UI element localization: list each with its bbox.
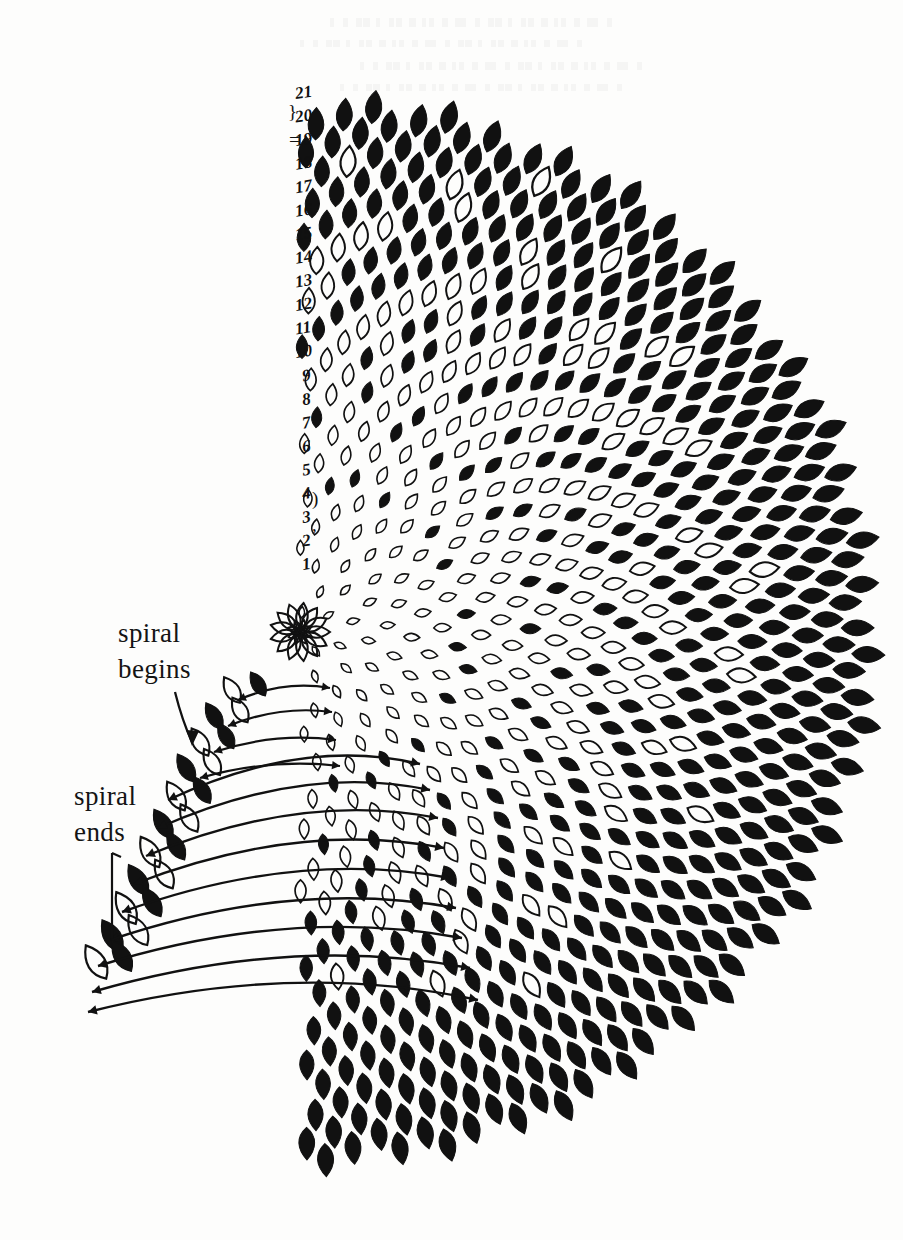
figure-canvas: 123456789101112131415161718192021}=), sp… <box>0 0 903 1240</box>
bleedthrough-mark <box>452 62 456 70</box>
row-number: 18 <box>294 152 314 174</box>
bleedthrough-mark <box>442 18 448 27</box>
bleedthrough-mark <box>508 18 512 27</box>
bleedthrough-mark <box>488 18 494 27</box>
row-number: 14 <box>294 246 314 267</box>
bleedthrough-mark <box>554 18 558 27</box>
bleedthrough-mark <box>343 18 348 27</box>
bleedthrough-mark <box>396 18 402 27</box>
bleedthrough-mark <box>340 84 344 91</box>
bleedthrough-mark <box>561 18 566 27</box>
bleedthrough-mark <box>518 84 522 91</box>
bleedthrough-mark <box>419 62 424 70</box>
bleedthrough-mark <box>366 40 372 47</box>
bleedthrough-mark <box>594 18 598 27</box>
row-brace-mark: ) <box>312 488 318 510</box>
row-number: 11 <box>294 317 313 338</box>
spiral-ends-line1: spiral <box>74 781 136 811</box>
bleedthrough-mark <box>485 84 490 91</box>
row-number: 21 <box>293 82 314 104</box>
bleedthrough-mark <box>521 18 526 27</box>
spiral-ends-line2: ends <box>74 817 125 847</box>
bleedthrough-mark <box>366 84 372 91</box>
bleedthrough-mark <box>495 18 502 27</box>
bleedthrough-mark <box>462 18 466 27</box>
bleedthrough-mark <box>386 84 390 91</box>
row-number: 10 <box>294 340 314 362</box>
bleedthrough-mark <box>518 62 524 70</box>
bleedthrough-mark <box>472 62 478 70</box>
bleedthrough-mark <box>472 84 476 91</box>
bleedthrough-mark <box>406 84 412 91</box>
spiral-begins-line1: spiral <box>118 618 180 648</box>
bleedthrough-mark <box>591 62 596 70</box>
bleedthrough-mark <box>564 40 568 47</box>
bleedthrough-mark <box>505 84 512 91</box>
bleedthrough-mark <box>330 18 334 27</box>
bleedthrough-mark <box>313 40 318 47</box>
row-brace-mark: } <box>288 101 297 122</box>
bleedthrough-mark <box>465 84 472 91</box>
row-number: 12 <box>294 293 314 315</box>
bleedthrough-mark <box>597 84 604 91</box>
spiral-begins-line2: begins <box>118 654 191 684</box>
bleedthrough-mark <box>574 18 580 27</box>
bleedthrough-mark <box>379 40 386 47</box>
bleedthrough-mark <box>373 62 378 70</box>
bleedthrough-mark <box>571 62 578 70</box>
bleedthrough-mark <box>571 84 576 91</box>
bleedthrough-mark <box>577 40 582 47</box>
bleedthrough-mark <box>624 62 628 70</box>
bleedthrough-mark <box>564 84 568 91</box>
bleedthrough-mark <box>531 40 536 47</box>
bleedthrough-mark <box>557 40 564 47</box>
bleedthrough-mark <box>458 40 464 47</box>
bleedthrough-mark <box>406 62 410 70</box>
bleedthrough-mark <box>538 62 542 70</box>
bleedthrough-mark <box>360 62 364 70</box>
bleedthrough-mark <box>412 40 418 47</box>
bleedthrough-mark <box>607 18 612 27</box>
bleedthrough-mark <box>544 40 550 47</box>
bleedthrough-mark <box>617 62 624 70</box>
bleedthrough-mark <box>491 40 496 47</box>
bleedthrough-mark <box>419 84 426 91</box>
bleedthrough-mark <box>333 40 340 47</box>
bleedthrough-mark <box>538 84 544 91</box>
row-number: 13 <box>294 270 314 292</box>
row-brace-mark: , <box>312 514 317 535</box>
bleedthrough-mark <box>422 18 426 27</box>
bleedthrough-mark <box>373 84 380 91</box>
bleedthrough-mark <box>452 84 458 91</box>
bleedthrough-mark <box>478 40 482 47</box>
bleedthrough-mark <box>584 84 590 91</box>
bleedthrough-mark <box>492 62 496 70</box>
bleedthrough-mark <box>485 62 492 70</box>
row-number: 15 <box>294 223 314 245</box>
bleedthrough-mark <box>399 40 404 47</box>
bleedthrough-mark <box>300 40 304 47</box>
bleedthrough-mark <box>604 62 610 70</box>
bleedthrough-mark <box>346 40 350 47</box>
bleedthrough-mark <box>637 62 642 70</box>
bleedthrough-mark <box>498 84 504 91</box>
bleedthrough-mark <box>432 40 436 47</box>
bleedthrough-mark <box>531 84 536 91</box>
bleedthrough-mark <box>426 62 432 70</box>
bleedthrough-mark <box>584 62 588 70</box>
bleedthrough-mark <box>353 84 358 91</box>
bleedthrough-mark <box>386 62 392 70</box>
bleedthrough-mark <box>455 18 462 27</box>
bleedthrough-mark <box>505 62 510 70</box>
phyllotaxis-diagram: 123456789101112131415161718192021}=), sp… <box>0 0 903 1240</box>
bleedthrough-mark <box>524 40 528 47</box>
bleedthrough-mark <box>617 84 622 91</box>
bleedthrough-mark <box>326 40 332 47</box>
bleedthrough-mark <box>465 40 472 47</box>
bleedthrough-mark <box>445 40 450 47</box>
bleedthrough-mark <box>439 62 446 70</box>
bleedthrough-mark <box>409 18 416 27</box>
bleedthrough-mark <box>525 62 532 70</box>
bleedthrough-mark <box>498 40 504 47</box>
bleedthrough-mark <box>432 84 436 91</box>
